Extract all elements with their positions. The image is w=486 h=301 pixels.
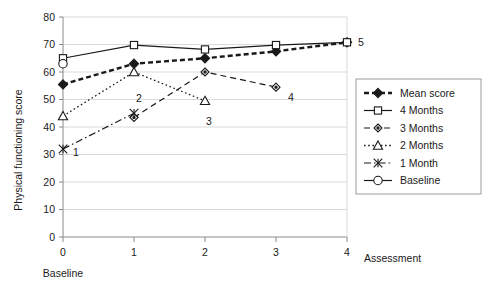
x-tick-label: 4 — [344, 246, 350, 258]
physical-functioning-line-chart: 01020304050607080 01234 Physical functio… — [0, 0, 486, 301]
y-tick-label: 40 — [43, 121, 55, 133]
y-axis-title: Physical functioning score — [12, 89, 24, 211]
legend: Mean score4 Months3 Months2 Months1 Mont… — [356, 79, 481, 194]
data-point-4-months — [130, 41, 137, 48]
annotation-1: 1 — [73, 146, 79, 158]
y-tick-label: 30 — [43, 148, 55, 160]
data-point-2-months — [58, 111, 67, 119]
y-axis — [59, 17, 63, 237]
data-point-4-months — [343, 39, 350, 46]
y-tick-label: 0 — [49, 231, 55, 243]
x-axis-title: Assessment — [364, 252, 421, 264]
series-markers — [58, 38, 351, 154]
y-tick-label: 70 — [43, 38, 55, 50]
y-tick-labels: 01020304050607080 — [43, 11, 55, 243]
y-tick-label: 80 — [43, 11, 55, 23]
data-point-mean-score — [200, 54, 209, 63]
legend-label-mean-score: Mean score — [400, 87, 455, 99]
y-tick-label: 20 — [43, 176, 55, 188]
annotation-3: 3 — [206, 115, 212, 127]
legend-label-baseline: Baseline — [400, 174, 440, 186]
series-line-1-month — [63, 113, 134, 149]
data-point-1-month — [59, 145, 68, 154]
legend-marker-4-months — [374, 107, 381, 114]
data-point-3-months — [204, 71, 206, 73]
legend-label-4-months: 4 Months — [400, 104, 443, 116]
data-point-mean-score — [58, 80, 67, 89]
data-point-3-months — [275, 86, 277, 88]
legend-marker-baseline — [374, 176, 382, 184]
data-point-4-months — [201, 46, 208, 53]
annotation-5: 5 — [358, 36, 364, 48]
baseline-note: Baseline — [43, 267, 83, 279]
y-tick-label: 10 — [43, 203, 55, 215]
series-line-3-months — [134, 72, 276, 117]
x-tick-label: 2 — [202, 246, 208, 258]
data-point-1-month — [130, 109, 139, 118]
legend-marker-3-months — [377, 127, 379, 129]
x-tick-label: 3 — [273, 246, 279, 258]
x-tick-label: 1 — [131, 246, 137, 258]
x-tick-label: 0 — [60, 246, 66, 258]
legend-label-2-months: 2 Months — [400, 139, 443, 151]
annotation-2: 2 — [136, 92, 142, 104]
legend-label-1-month: 1 Month — [400, 157, 438, 169]
legend-label-3-months: 3 Months — [400, 122, 443, 134]
annotation-4: 4 — [288, 91, 294, 103]
data-point-4-months — [272, 41, 279, 48]
chart-container: 01020304050607080 01234 Physical functio… — [0, 0, 486, 301]
point-annotations: 12345 — [73, 36, 364, 157]
x-tick-labels: 01234 — [60, 246, 350, 258]
data-point-baseline — [59, 60, 67, 68]
data-point-2-months — [200, 96, 209, 104]
y-tick-label: 50 — [43, 93, 55, 105]
y-tick-label: 60 — [43, 66, 55, 78]
